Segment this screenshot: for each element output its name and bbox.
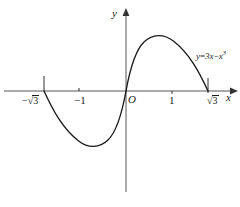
tick-label-neg-sqrt3: −√3 — [22, 95, 39, 106]
x-axis-label: x — [226, 92, 231, 103]
equation-term2-exponent: 3 — [223, 49, 226, 56]
equation-term1: 3x — [205, 51, 214, 61]
x-axis-arrowhead — [230, 88, 238, 95]
equation-annotation: y=3x−x3 — [196, 50, 226, 61]
function-graph-figure: y x O −√3 −1 1 √3 y=3x−x3 — [0, 0, 240, 207]
tick-label-sqrt3: √3 — [207, 95, 219, 106]
tick-label-neg-one: −1 — [74, 95, 86, 106]
origin-label: O — [128, 94, 136, 105]
y-axis-label: y — [112, 8, 117, 19]
radicand: 3 — [32, 95, 39, 106]
y-axis-arrowhead — [123, 8, 130, 16]
radical-group: √3 — [207, 95, 219, 106]
tick-label-one: 1 — [169, 95, 175, 106]
radicand: 3 — [212, 95, 219, 106]
radical-group: √3 — [28, 95, 40, 106]
